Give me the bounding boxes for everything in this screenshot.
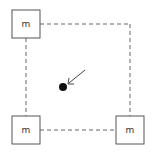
node-bottom-right: m [116,116,144,144]
arrow-icon [68,70,85,84]
node-bottom-left: m [12,116,40,144]
node-top-left: m [12,10,40,38]
node-label: m [126,125,135,135]
diagram-canvas: m m m [0,0,153,152]
node-label: m [22,19,31,29]
node-label: m [22,125,31,135]
center-dot [59,83,67,91]
dashed-connectors [26,24,130,130]
